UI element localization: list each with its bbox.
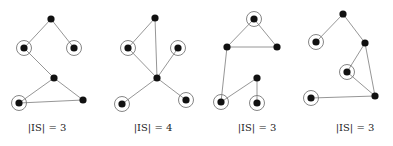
edge xyxy=(24,19,51,48)
edge xyxy=(51,19,74,48)
graph-node xyxy=(273,43,280,50)
edge xyxy=(157,48,178,78)
edge xyxy=(19,78,54,103)
edge xyxy=(155,18,157,78)
graph-node xyxy=(371,92,378,99)
edge xyxy=(128,18,155,48)
edge xyxy=(54,78,83,100)
graph-node xyxy=(153,74,160,81)
graph-node xyxy=(20,44,27,51)
graph-1-label: |IS| = 3 xyxy=(28,122,67,134)
graph-node xyxy=(47,15,54,22)
graph-node xyxy=(250,15,257,22)
graph-3 xyxy=(214,12,281,111)
graph-node xyxy=(253,74,260,81)
graph-node xyxy=(151,14,158,21)
edge xyxy=(221,47,227,102)
graph-node xyxy=(50,74,57,81)
edge xyxy=(347,43,365,72)
edge xyxy=(343,14,365,43)
graph-node xyxy=(253,99,260,106)
graph-node xyxy=(307,94,314,101)
edge xyxy=(19,100,83,103)
graph-node xyxy=(79,96,86,103)
graph-1 xyxy=(12,15,87,110)
edge xyxy=(254,19,277,47)
graph-2 xyxy=(115,14,194,111)
graph-node xyxy=(182,96,189,103)
graph-node xyxy=(343,68,350,75)
graph-node xyxy=(217,98,224,105)
graph-4-label: |IS| = 3 xyxy=(336,122,375,134)
graph-node xyxy=(118,100,125,107)
graph-node xyxy=(70,44,77,51)
independent-set-figure: |IS| = 3 |IS| = 4 |IS| = 3 |IS| = 3 xyxy=(0,0,393,146)
graph-node xyxy=(223,43,230,50)
graph-node xyxy=(361,39,368,46)
edge xyxy=(311,96,375,98)
graph-node xyxy=(124,44,131,51)
edge xyxy=(157,78,186,100)
edge xyxy=(122,78,157,104)
edge xyxy=(316,14,343,42)
graph-3-label: |IS| = 3 xyxy=(238,122,277,134)
edge xyxy=(128,48,157,78)
graph-node xyxy=(15,99,22,106)
graph-node xyxy=(339,10,346,17)
edge xyxy=(227,19,254,47)
graph-node xyxy=(312,38,319,45)
graph-node xyxy=(174,44,181,51)
graph-2-label: |IS| = 4 xyxy=(134,122,173,134)
edge xyxy=(365,43,375,96)
edge xyxy=(24,48,54,78)
graph-4 xyxy=(304,10,379,105)
